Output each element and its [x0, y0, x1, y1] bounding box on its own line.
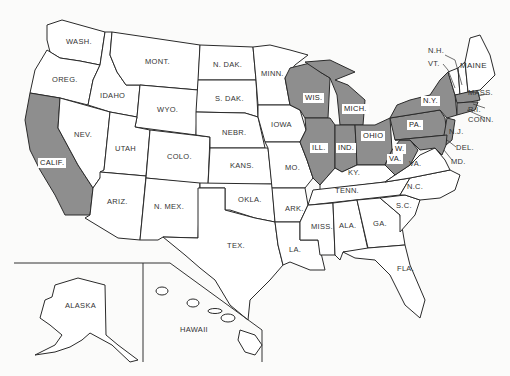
label-tenn: TENN.	[335, 187, 359, 195]
label-nc: N.C.	[407, 183, 423, 191]
label-pa: PA.	[407, 120, 423, 130]
label-ga: GA.	[373, 220, 387, 228]
label-ri: R.I.	[468, 106, 481, 114]
label-nev: NEV.	[74, 131, 92, 139]
label-la: LA.	[289, 246, 301, 254]
label-wva-va: VA.	[387, 154, 403, 164]
label-mo: MO.	[285, 164, 300, 172]
label-oreg: OREG.	[52, 76, 78, 84]
hawaii-island-molokai[interactable]	[208, 309, 222, 314]
state-new-york[interactable]	[390, 72, 457, 118]
label-colo: COLO.	[167, 153, 192, 161]
us-map: WASH. OREG. CALIF. IDAHO NEV. MONT. WYO.…	[0, 0, 510, 376]
state-florida[interactable]	[343, 245, 425, 318]
label-md: MD.	[451, 158, 466, 166]
label-sc: S.C.	[396, 202, 412, 210]
label-maine: MAINE	[460, 62, 487, 70]
label-conn: CONN.	[468, 116, 494, 124]
label-mont: MONT.	[145, 58, 170, 66]
label-ark: ARK.	[285, 205, 304, 213]
label-sdak: S. DAK.	[215, 95, 244, 103]
label-kans: KANS.	[230, 162, 254, 170]
label-wash: WASH.	[66, 38, 92, 46]
map-svg	[0, 0, 510, 376]
label-idaho: IDAHO	[100, 92, 125, 100]
label-nmex: N. MEX.	[154, 203, 184, 211]
label-ind: IND.	[336, 143, 356, 153]
label-mich: MICH.	[342, 104, 369, 114]
label-calif: CALIF.	[38, 158, 66, 168]
label-miss: MISS.	[311, 223, 333, 231]
label-ny: N.Y.	[421, 96, 440, 106]
label-ariz: ARIZ.	[107, 198, 128, 206]
label-mass: MASS.	[468, 89, 493, 97]
label-nj: N.J.	[449, 128, 464, 136]
label-minn: MINN.	[261, 70, 284, 78]
hawaii-island-big-island[interactable]	[238, 330, 262, 355]
label-nebr: NEBR.	[222, 129, 246, 137]
label-tex: TEX.	[227, 242, 245, 250]
label-wva-w: W.	[393, 144, 406, 154]
hawaii-island-oahu[interactable]	[187, 299, 199, 307]
hawaii-island-maui[interactable]	[221, 314, 235, 322]
label-wyo: WYO.	[157, 106, 178, 114]
label-okla: OKLA.	[238, 196, 262, 204]
label-va: VA.	[409, 160, 421, 168]
label-fla: FLA.	[397, 265, 414, 273]
label-ill: ILL.	[310, 143, 328, 153]
label-del: DEL.	[456, 144, 474, 152]
label-nh: N.H.	[428, 47, 444, 55]
label-iowa: IOWA	[271, 121, 292, 129]
hawaii-island-kauai[interactable]	[156, 287, 168, 295]
label-ala: ALA.	[339, 222, 356, 230]
state-alaska[interactable]	[35, 278, 138, 362]
label-ky: KY.	[348, 169, 360, 177]
label-ohio: OHIO	[361, 131, 385, 141]
label-alaska: ALASKA	[65, 302, 96, 310]
label-wis: WIS.	[303, 93, 324, 103]
label-hawaii: HAWAII	[180, 326, 208, 334]
label-ndak: N. DAK.	[213, 61, 242, 69]
label-utah: UTAH	[115, 145, 136, 153]
label-vt: VT.	[428, 60, 440, 68]
